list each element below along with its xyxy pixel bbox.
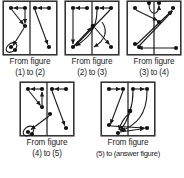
figure-box-5	[100, 81, 156, 137]
node	[128, 109, 133, 114]
node	[109, 45, 113, 49]
figure-cell-3: From figure (3) to (4)	[124, 0, 184, 78]
node	[95, 6, 99, 10]
node	[109, 6, 113, 10]
node	[107, 87, 111, 91]
node	[145, 87, 149, 91]
node	[157, 1, 161, 5]
node	[47, 6, 51, 10]
node	[145, 126, 149, 130]
node	[13, 48, 17, 52]
figure-box-1	[2, 0, 58, 56]
arrow-n7-n4	[139, 11, 173, 46]
figure-box-4	[19, 81, 75, 137]
node	[171, 6, 175, 10]
node	[26, 87, 30, 91]
figure-caption-line1: From figure	[10, 57, 51, 67]
arrow-n3-n7	[35, 10, 48, 45]
figure-caption-line2: (5) to (answer figure)	[96, 149, 160, 159]
node	[71, 6, 75, 10]
figure-row-top: From figure (1) to (2)	[0, 0, 184, 78]
figure-cell-1: From figure (1) to (2)	[0, 0, 60, 78]
node	[174, 46, 178, 50]
node	[64, 126, 68, 130]
node	[131, 87, 135, 91]
figure-cell-5: From figure (5) to (answer figure)	[88, 81, 168, 159]
arrow-n1-n5	[12, 10, 24, 25]
node	[147, 1, 151, 5]
arrow-curve-right	[94, 22, 105, 47]
node	[26, 130, 30, 134]
figure-cell-2: From figure (2) to (3)	[62, 0, 122, 78]
figure-caption-line2: (1) to (2)	[15, 68, 44, 78]
node	[116, 131, 120, 135]
figure-cell-4: From figure (4) to (5)	[16, 81, 78, 159]
figure-caption-line1: From figure	[108, 138, 149, 148]
figure-caption-line2: (4) to (5)	[32, 149, 61, 159]
arrow-n6-n5	[74, 28, 92, 47]
figure-box-3	[126, 0, 182, 56]
figure-caption-line1: From figure	[134, 57, 175, 67]
figure-row-bottom: From figure (4) to (5)	[0, 81, 184, 159]
node	[33, 6, 37, 10]
node	[30, 132, 34, 136]
node	[91, 24, 96, 29]
figure-series-sheet: From figure (1) to (2)	[0, 0, 184, 178]
node-group	[133, 1, 178, 50]
node	[40, 105, 44, 109]
node	[50, 87, 54, 91]
node	[23, 24, 27, 28]
arrow-n4-n7-curve	[121, 91, 147, 131]
node	[121, 87, 125, 91]
node	[71, 45, 75, 49]
node	[85, 6, 89, 10]
node	[40, 87, 44, 91]
node	[157, 20, 161, 24]
figure-caption-line2: (3) to (4)	[139, 68, 168, 78]
figure-caption-line1: From figure	[72, 57, 113, 67]
figure-caption-line1: From figure	[27, 138, 68, 148]
arrow-n2-n6	[111, 91, 124, 124]
node	[9, 6, 13, 10]
arrow-n3-n8	[52, 91, 65, 126]
node	[47, 45, 51, 49]
node	[133, 42, 137, 46]
node	[64, 87, 68, 91]
node	[107, 123, 111, 127]
node	[133, 6, 137, 10]
node	[137, 45, 141, 49]
figure-caption-line2: (2) to (3)	[77, 68, 106, 78]
arrow-n5-n7	[95, 28, 110, 45]
arrow-n1-n5	[29, 91, 41, 106]
figure-box-2	[64, 0, 120, 56]
node	[23, 6, 27, 10]
node	[48, 112, 52, 116]
node	[9, 45, 13, 49]
